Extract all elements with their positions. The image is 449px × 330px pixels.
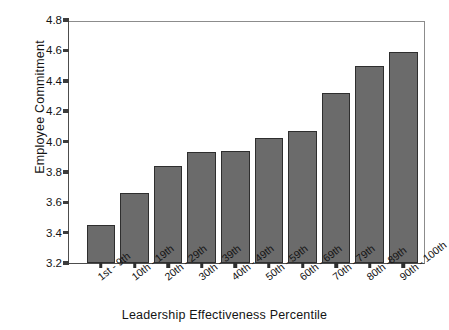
y-tick-mark bbox=[63, 231, 69, 235]
bar bbox=[389, 52, 418, 263]
y-tick-label: 4.8 bbox=[46, 14, 62, 26]
y-tick-label: 3.2 bbox=[46, 257, 62, 269]
y-tick-label: 4.2 bbox=[46, 105, 62, 117]
plot-area: 3.23.43.63.84.04.24.44.64.8 1st - 9th10t… bbox=[68, 21, 425, 264]
bar bbox=[355, 66, 384, 263]
y-tick-label: 3.4 bbox=[46, 227, 62, 239]
bar-chart-figure: Employee Commitment 3.23.43.63.84.04.24.… bbox=[0, 0, 449, 330]
y-tick-mark bbox=[63, 109, 69, 113]
y-tick-mark bbox=[63, 79, 69, 83]
y-tick-label: 4.6 bbox=[46, 44, 62, 56]
y-tick-mark bbox=[63, 201, 69, 205]
bar bbox=[87, 225, 116, 263]
y-tick-label: 3.6 bbox=[46, 196, 62, 208]
y-tick-mark bbox=[63, 261, 69, 265]
y-tick-mark bbox=[63, 49, 69, 53]
y-tick-label: 4.0 bbox=[46, 136, 62, 148]
y-tick-label: 4.4 bbox=[46, 75, 62, 87]
x-axis-title: Leadership Effectiveness Percentile bbox=[0, 308, 449, 322]
bar bbox=[322, 93, 351, 263]
y-tick-mark bbox=[63, 18, 69, 22]
y-tick-mark bbox=[63, 170, 69, 174]
y-tick-label: 3.8 bbox=[46, 166, 62, 178]
y-axis-title: Employee Commitment bbox=[33, 7, 47, 207]
y-tick-mark bbox=[63, 140, 69, 144]
